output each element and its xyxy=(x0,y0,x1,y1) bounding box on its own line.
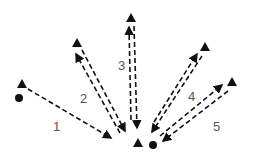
triangle-marker-2 xyxy=(72,38,82,47)
arrow-3-back xyxy=(129,27,131,120)
label-3: 3 xyxy=(118,58,125,73)
arrow-4-back xyxy=(154,54,197,122)
triangle-marker-5 xyxy=(227,77,237,86)
label-5: 5 xyxy=(213,119,220,134)
triangle-marker-1 xyxy=(17,79,27,88)
dot-marker-left xyxy=(15,94,23,102)
label-2: 2 xyxy=(80,91,87,106)
dot-marker-center xyxy=(149,141,157,149)
arrow-1 xyxy=(28,89,111,138)
triangle-marker-3 xyxy=(126,13,136,22)
label-1: 1 xyxy=(53,119,60,134)
label-4: 4 xyxy=(188,89,195,104)
arrow-3-out xyxy=(134,26,137,128)
triangle-marker-4 xyxy=(200,42,210,51)
triangle-marker-center xyxy=(133,138,143,147)
arrow-diagram: 1 2 3 4 5 xyxy=(0,0,268,160)
